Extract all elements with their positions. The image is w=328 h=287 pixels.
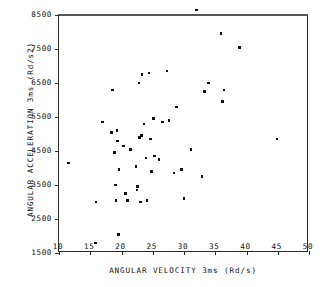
data-point	[114, 184, 117, 187]
y-axis-tick	[55, 185, 59, 186]
x-axis-tick-label: 40	[234, 242, 258, 251]
x-axis-tick	[215, 251, 216, 255]
x-axis-tick	[309, 251, 310, 255]
x-axis-tick	[122, 251, 123, 255]
data-point	[150, 170, 153, 173]
y-axis-tick	[55, 15, 59, 16]
data-point	[138, 82, 141, 85]
data-point	[203, 90, 206, 93]
x-axis-tick	[153, 251, 154, 255]
x-axis-tick-label: 10	[46, 242, 70, 251]
data-point	[223, 89, 226, 92]
y-axis-tick-label: 4500	[12, 146, 52, 155]
data-point	[111, 89, 114, 92]
data-point	[153, 155, 156, 158]
y-axis-tick-label: 8500	[12, 10, 52, 19]
data-point	[101, 121, 104, 124]
data-point	[146, 199, 149, 202]
data-point	[143, 123, 146, 126]
x-axis-tick	[90, 251, 91, 255]
data-point	[158, 158, 161, 161]
data-point	[276, 138, 279, 141]
data-point	[116, 129, 119, 132]
data-point	[220, 32, 223, 35]
data-point	[118, 168, 121, 171]
data-point	[95, 201, 98, 204]
data-point	[129, 148, 132, 151]
data-point	[136, 189, 139, 192]
data-point	[221, 100, 224, 103]
y-axis-tick-label: 7500	[12, 44, 52, 53]
plot-area	[58, 14, 308, 252]
data-point	[115, 199, 118, 202]
x-axis-tick	[247, 251, 248, 255]
y-axis-tick	[55, 151, 59, 152]
x-axis-tick-label: 30	[171, 242, 195, 251]
data-point	[122, 145, 125, 148]
x-axis-tick-label: 50	[296, 242, 320, 251]
data-point	[117, 233, 120, 236]
data-point	[145, 157, 148, 160]
x-axis-tick-label: 20	[109, 242, 133, 251]
data-point	[201, 175, 204, 178]
data-point	[116, 140, 119, 143]
y-axis-tick-label: 6500	[12, 78, 52, 87]
x-axis-tick	[59, 251, 60, 255]
data-point	[67, 162, 70, 165]
y-axis-tick-label: 2500	[12, 214, 52, 223]
data-point	[190, 148, 193, 151]
data-point	[126, 199, 129, 202]
data-point	[148, 72, 151, 75]
x-axis-tick	[184, 251, 185, 255]
x-axis-tick-label: 15	[77, 242, 101, 251]
data-point	[207, 82, 210, 85]
data-point	[166, 70, 169, 73]
data-point	[140, 134, 143, 137]
data-point	[238, 46, 241, 49]
x-axis-tick-label: 45	[265, 242, 289, 251]
x-axis-title: ANGULAR VELOCITY 3ms (Rd/s)	[58, 266, 308, 275]
data-point	[161, 121, 164, 124]
y-axis-tick	[55, 49, 59, 50]
data-point	[175, 106, 178, 109]
data-point	[195, 9, 198, 12]
x-axis-tick-label: 25	[140, 242, 164, 251]
data-point	[180, 168, 183, 171]
data-point	[168, 119, 171, 122]
y-axis-tick	[55, 117, 59, 118]
data-point	[149, 138, 152, 141]
data-point	[173, 172, 176, 175]
y-axis-tick	[55, 219, 59, 220]
x-axis-tick-label: 35	[202, 242, 226, 251]
data-point	[113, 151, 116, 154]
x-axis-tick	[278, 251, 279, 255]
data-point	[124, 192, 127, 195]
y-axis-tick-label: 3500	[12, 180, 52, 189]
data-point	[141, 73, 144, 76]
data-point	[139, 201, 142, 204]
scatter-plot-figure: ANGULAR ACCELERATION 3ms (Rd/s2) ANGULAR…	[0, 0, 328, 287]
y-axis-tick	[55, 83, 59, 84]
data-point	[183, 197, 186, 200]
data-point	[152, 117, 155, 120]
y-axis-tick-label: 5500	[12, 112, 52, 121]
data-point	[136, 185, 139, 188]
data-point	[135, 165, 138, 168]
data-point	[110, 131, 113, 134]
